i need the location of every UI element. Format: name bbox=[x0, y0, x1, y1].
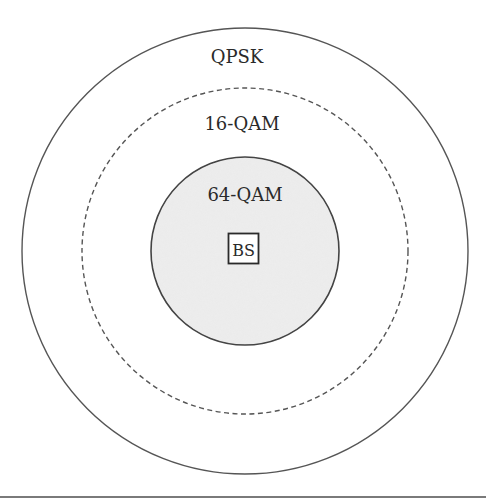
64qam-label: 64-QAM bbox=[207, 184, 282, 205]
qpsk-label: QPSK bbox=[211, 46, 264, 67]
base-station-label: BS bbox=[232, 241, 255, 260]
diagram-canvas: QPSK 16-QAM 64-QAM BS bbox=[0, 0, 486, 502]
16qam-label: 16-QAM bbox=[204, 113, 279, 134]
modulation-zones-diagram: QPSK 16-QAM 64-QAM BS bbox=[0, 0, 486, 502]
